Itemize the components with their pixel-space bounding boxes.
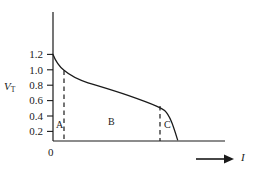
y-axis-ticks — [47, 54, 53, 131]
y-tick-label-1-2: 1.2 — [21, 49, 43, 60]
x-axis-title: I — [241, 152, 245, 163]
x-axis-arrow-icon — [196, 154, 234, 163]
region-label-a: A — [56, 120, 63, 130]
y-axis-title-subscript: T — [11, 85, 16, 94]
y-tick-label-0-8: 0.8 — [21, 80, 43, 91]
y-tick-label-0-6: 0.6 — [21, 95, 43, 106]
region-label-c: C — [164, 120, 171, 130]
origin-label: 0 — [48, 147, 54, 158]
y-axis-title: VT — [4, 81, 15, 93]
discharge-curve — [53, 54, 178, 139]
x-axis-arrow-head — [224, 154, 234, 163]
y-tick-label-1-0: 1.0 — [21, 65, 43, 76]
y-tick-label-0-2: 0.2 — [21, 126, 43, 137]
y-axis-title-base: V — [4, 80, 11, 92]
y-tick-label-0-4: 0.4 — [21, 111, 43, 122]
region-label-b: B — [108, 117, 115, 127]
chart-figure: 1.2 1.0 0.8 0.6 0.4 0.2 VT 0 I A B C — [0, 0, 255, 173]
